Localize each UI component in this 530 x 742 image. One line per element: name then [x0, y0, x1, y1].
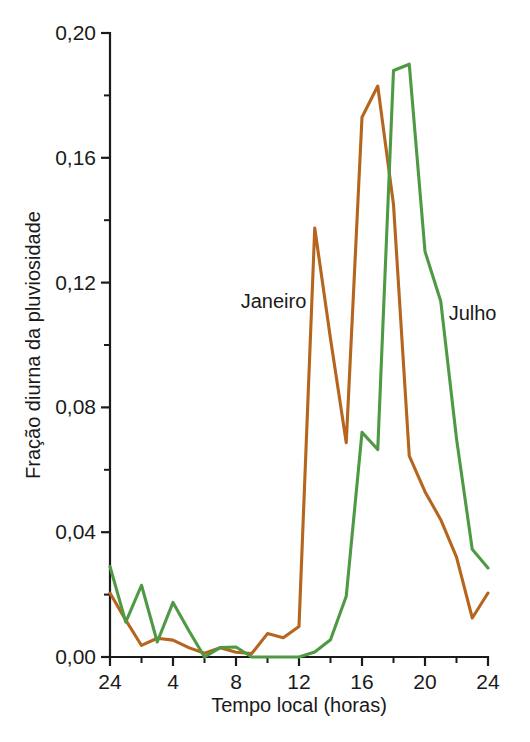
- y-axis-title: Fração diurna da pluviosidade: [22, 211, 44, 479]
- y-tick-label-2: 0,08: [55, 395, 96, 418]
- x-tick-label-2: 8: [230, 670, 242, 693]
- diurnal-rainfall-line-chart: 0,000,040,080,120,160,20244812162024 Jan…: [0, 0, 530, 742]
- x-tick-label-3: 12: [287, 670, 310, 693]
- x-tick-label-4: 16: [350, 670, 373, 693]
- chart-figure: 0,000,040,080,120,160,20244812162024 Jan…: [0, 0, 530, 742]
- y-tick-label-3: 0,12: [55, 271, 96, 294]
- y-tick-label-5: 0,20: [55, 21, 96, 44]
- x-tick-label-6: 24: [476, 670, 500, 693]
- y-tick-label-4: 0,16: [55, 146, 96, 169]
- x-tick-label-0: 24: [98, 670, 122, 693]
- plot-background: [0, 0, 530, 742]
- x-tick-label-5: 20: [413, 670, 436, 693]
- series-annotation-julho: Julho: [449, 302, 497, 324]
- x-axis-title: Tempo local (horas): [211, 694, 387, 716]
- y-tick-label-0: 0,00: [55, 645, 96, 668]
- y-tick-label-1: 0,04: [55, 520, 96, 543]
- series-annotation-janeiro: Janeiro: [241, 290, 307, 312]
- x-tick-label-1: 4: [167, 670, 179, 693]
